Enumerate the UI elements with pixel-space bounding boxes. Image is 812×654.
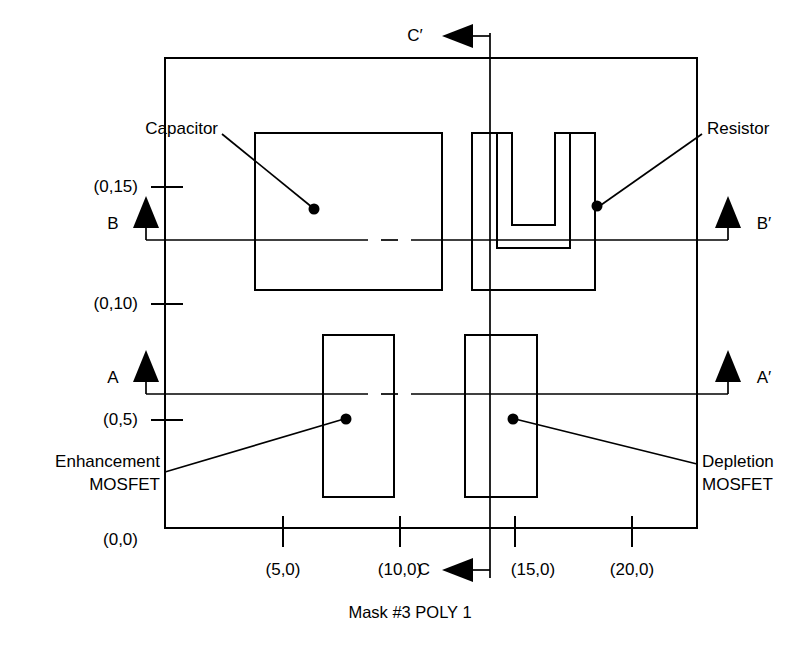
capacitor-marker-dot xyxy=(309,204,320,215)
section-arrow-b-prime xyxy=(715,196,741,228)
callout-label-capacitor: Capacitor xyxy=(145,119,218,138)
resistor-marker-dot xyxy=(592,201,603,212)
y-tick-label-0: (0,0) xyxy=(103,530,138,549)
figure-caption: Mask #3 POLY 1 xyxy=(348,603,471,621)
x-tick-label-10: (10,0) xyxy=(378,560,422,579)
section-label-c-prime: C′ xyxy=(407,26,422,45)
section-arrow-c xyxy=(442,558,473,582)
callout-label-depletion-mosfet-line2: MOSFET xyxy=(702,475,773,494)
section-arrow-a xyxy=(133,350,159,382)
x-tick-label-15: (15,0) xyxy=(511,560,555,579)
enhancement-mosfet-marker-dot xyxy=(341,414,352,425)
section-label-b: B xyxy=(107,214,118,233)
y-tick-label-15: (0,15) xyxy=(94,177,138,196)
depletion-mosfet-gate xyxy=(465,335,537,497)
section-arrow-c-prime xyxy=(442,24,473,48)
callout-label-depletion-mosfet-line1: Depletion xyxy=(702,452,774,471)
resistor-serpentine-inner xyxy=(497,133,570,248)
figure-page: C′ C B B′ A A′ (0,15) xyxy=(0,0,812,654)
capacitor-plate xyxy=(255,133,442,290)
x-tick-label-5: (5,0) xyxy=(266,560,301,579)
y-tick-label-5: (0,5) xyxy=(103,410,138,429)
enhancement-mosfet-gate xyxy=(323,335,394,497)
section-arrow-a-prime xyxy=(715,350,741,382)
section-label-a: A xyxy=(107,368,119,387)
section-label-a-prime: A′ xyxy=(757,368,772,387)
section-label-b-prime: B′ xyxy=(757,214,772,233)
section-arrow-b xyxy=(133,196,159,228)
callout-label-enhancement-mosfet-line2: MOSFET xyxy=(89,475,160,494)
die-outline xyxy=(165,58,697,528)
callout-label-enhancement-mosfet-line1: Enhancement xyxy=(55,452,160,471)
x-tick-label-20: (20,0) xyxy=(610,560,654,579)
enhancement-mosfet-leader-line xyxy=(165,419,344,472)
resistor-leader-line xyxy=(601,134,702,205)
depletion-mosfet-leader-line xyxy=(515,419,697,464)
callout-label-resistor: Resistor xyxy=(707,119,770,138)
y-tick-label-10: (0,10) xyxy=(94,294,138,313)
mask-layout-diagram: C′ C B B′ A A′ (0,15) xyxy=(0,0,812,654)
depletion-mosfet-marker-dot xyxy=(508,414,519,425)
capacitor-leader-line xyxy=(222,134,313,208)
